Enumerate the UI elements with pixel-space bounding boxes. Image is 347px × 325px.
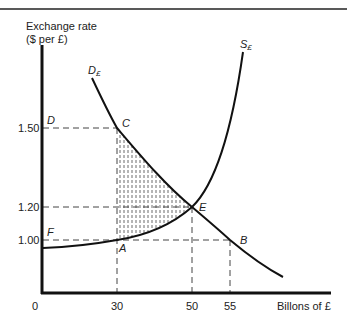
shaded-area (120, 120, 188, 245)
y-axis-title-line2: ($ per £) (26, 33, 68, 45)
y-tick-1-20: 1.20 (18, 201, 39, 213)
y-axis-title-line1: Exchange rate (26, 20, 97, 32)
point-d-label: D (47, 114, 55, 126)
x-axis-title: Billons of £ (277, 300, 331, 312)
demand-label: D£ (88, 64, 101, 78)
point-b-label: B (240, 234, 247, 246)
point-e-label: E (199, 201, 207, 213)
supply-curve (43, 52, 243, 248)
x-tick-50: 50 (186, 300, 198, 312)
supply-label: S£ (240, 38, 252, 52)
point-f-label: F (47, 226, 55, 238)
y-tick-1-00: 1.00 (18, 234, 39, 246)
x-tick-0: 0 (32, 300, 38, 312)
y-tick-1-50: 1.50 (18, 122, 39, 134)
point-c-label: C (122, 117, 130, 129)
point-a-label: A (118, 242, 126, 254)
exchange-rate-chart: Exchange rate ($ per £) 1.50 1.20 1.00 0… (0, 0, 347, 325)
x-tick-30: 30 (111, 300, 123, 312)
x-tick-55: 55 (224, 300, 236, 312)
